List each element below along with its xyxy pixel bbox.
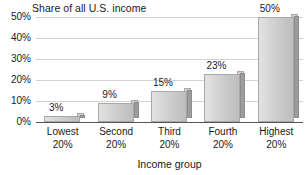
x-axis-tick-label: Highest20% [250, 126, 303, 151]
x-axis-tick-label-line2: 20% [36, 139, 89, 152]
bar-value-label: 3% [36, 103, 76, 113]
plot-area: 3%9%15%23%50% [36, 17, 303, 122]
bar[interactable] [258, 17, 294, 122]
bar-front-face [151, 91, 187, 123]
x-axis-tick-label-line1: Lowest [47, 126, 79, 137]
bar-front-face [204, 74, 240, 122]
x-axis-tick-label-line2: 20% [250, 139, 303, 152]
bar-side-face [80, 115, 85, 118]
chart-title: Share of all U.S. income [32, 2, 146, 15]
y-axis-tick-label: 40% [11, 33, 31, 43]
x-axis-tick-label-line1: Third [158, 126, 181, 137]
x-axis-tick-labels: Lowest20%Second20%Third20%Fourth20%Highe… [36, 126, 303, 154]
bar-value-label: 15% [143, 78, 183, 88]
x-axis-tick-label: Fourth20% [196, 126, 249, 151]
bar-value-label: 9% [90, 90, 130, 100]
x-axis-tick-label: Second20% [89, 126, 142, 151]
bar-side-face [187, 90, 192, 119]
x-axis-tick-label-line2: 20% [196, 139, 249, 152]
y-axis-tick-label: 20% [11, 75, 31, 85]
x-axis-tick-label-line1: Fourth [208, 126, 237, 137]
bar-side-face [294, 16, 299, 118]
bar[interactable] [44, 116, 80, 122]
x-axis-tick-label-line2: 20% [143, 139, 196, 152]
bar-front-face [98, 103, 134, 122]
bar[interactable] [204, 74, 240, 122]
bar[interactable] [98, 103, 134, 122]
bar-side-face [134, 102, 139, 118]
bars-layer: 3%9%15%23%50% [36, 17, 303, 122]
x-axis-tick-label-line1: Highest [259, 126, 293, 137]
axis-baseline [36, 122, 303, 123]
y-axis-tick-label: 0% [17, 117, 31, 127]
bar-value-label: 50% [250, 4, 290, 14]
x-axis-tick-label: Third20% [143, 126, 196, 151]
y-axis-tick-labels: 0%10%20%30%40%50% [0, 17, 33, 122]
x-axis-title: Income group [36, 158, 303, 171]
y-axis-tick-label: 30% [11, 54, 31, 64]
bar[interactable] [151, 91, 187, 123]
bar-chart: Share of all U.S. income 0%10%20%30%40%5… [0, 0, 307, 175]
bar-value-label: 23% [196, 61, 236, 71]
y-axis-tick-label: 10% [11, 96, 31, 106]
x-axis-tick-label-line1: Second [99, 126, 133, 137]
bar-front-face [44, 116, 80, 122]
bar-front-face [258, 17, 294, 122]
x-axis-tick-label-line2: 20% [89, 139, 142, 152]
bar-side-face [240, 73, 245, 118]
y-axis-tick-label: 50% [11, 12, 31, 22]
x-axis-tick-label: Lowest20% [36, 126, 89, 151]
